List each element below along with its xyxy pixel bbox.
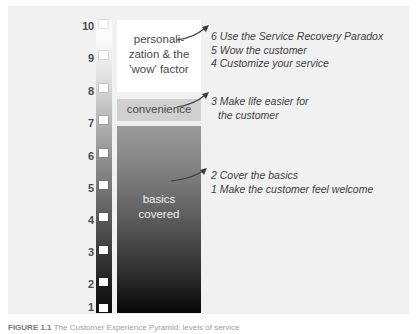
axis-tick-4: 4 [72,215,94,226]
annotation-group-mid: 3 Make life easier for the customer [211,95,308,122]
ruler-tick-10 [99,20,108,28]
annotation-item-4: 4 Customize your service [211,57,383,71]
ruler-tick-4 [99,213,108,221]
ruler-tick-1 [99,304,108,312]
block-basics-label: basics covered [117,192,201,222]
annotation-text-3-cont: the customer [218,109,279,121]
annotation-group-top: 6 Use the Service Recovery Paradox 5 Wow… [211,30,383,71]
annotation-text-1: Make the customer feel welcome [220,183,373,195]
annotation-item-5: 5 Wow the customer [211,44,383,58]
axis-tick-5: 5 [72,183,94,194]
axis-tick-9: 9 [72,53,94,64]
block-basics-line1: basics [117,192,201,207]
block-basics-line2: covered [117,207,201,222]
figure-caption: FIGURE 1.1 The Customer Experience Pyram… [8,322,408,333]
curved-arrow-icon-top [176,23,216,43]
annotation-item-2: 2 Cover the basics [211,169,373,183]
service-level-axis: 10 9 8 7 6 5 4 3 2 1 [56,6,94,314]
block-personalization-line3: 'wow' factor [117,62,201,77]
axis-tick-6: 6 [72,151,94,162]
annotation-num-1: 1 [211,183,217,195]
annotation-group-low: 2 Cover the basics 1 Make the customer f… [211,169,373,196]
annotation-text-2: Cover the basics [220,169,298,181]
block-basics: basics covered [117,126,201,313]
annotation-num-6: 6 [211,30,217,42]
ruler-tick-8 [99,84,108,92]
gradient-ruler [96,20,112,313]
ruler-tick-5 [99,181,108,189]
annotation-num-2: 2 [211,169,217,181]
axis-tick-7: 7 [72,118,94,129]
annotation-item-1: 1 Make the customer feel welcome [211,183,373,197]
annotation-text-5: Wow the customer [220,44,307,56]
axis-tick-10: 10 [72,21,94,32]
annotation-num-5: 5 [211,44,217,56]
figure-caption-label: FIGURE 1.1 [8,323,52,332]
ruler-tick-3 [99,246,108,254]
ruler-tick-6 [99,149,108,157]
figure-panel: 10 9 8 7 6 5 4 3 2 1 personali- zation &… [8,6,409,314]
axis-tick-3: 3 [72,247,94,258]
annotation-item-3-cont: the customer [211,109,308,123]
curved-arrow-icon-low [170,165,214,185]
annotation-num-3: 3 [211,95,217,107]
block-personalization-line2: zation & the [117,47,201,62]
axis-tick-1: 1 [72,302,94,313]
ruler-tick-9 [99,51,108,59]
annotation-text-4: Customize your service [220,57,329,69]
annotation-num-4: 4 [211,57,217,69]
curved-arrow-icon-mid [176,90,216,110]
axis-tick-8: 8 [72,86,94,97]
annotation-item-6: 6 Use the Service Recovery Paradox [211,30,383,44]
figure-caption-text: The Customer Experience Pyramid: levels … [54,323,240,332]
axis-tick-2: 2 [72,279,94,290]
annotation-text-6: Use the Service Recovery Paradox [220,30,383,42]
annotation-text-3: Make life easier for [220,95,309,107]
annotation-item-3: 3 Make life easier for [211,95,308,109]
ruler-tick-7 [99,116,108,124]
ruler-tick-2 [99,278,108,286]
